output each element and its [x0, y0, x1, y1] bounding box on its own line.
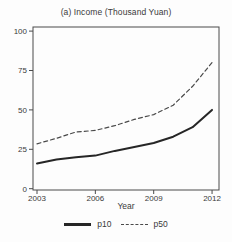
y-tick-label: 50	[18, 106, 27, 115]
line-p10	[37, 110, 212, 164]
legend-item-p50: p50	[121, 219, 168, 229]
legend-label-p10: p10	[97, 219, 111, 229]
plot-frame	[33, 27, 219, 190]
y-tick-label: 100	[14, 27, 28, 36]
legend-label-p50: p50	[154, 219, 168, 229]
x-axis-title: Year	[33, 201, 219, 211]
solid-line-swatch	[64, 223, 91, 226]
dashed-line-swatch	[121, 224, 148, 225]
chart-panel: (a) Income (Thousand Yuan) 0255075100200…	[0, 0, 232, 242]
y-tick-label: 75	[18, 66, 27, 75]
y-tick-label: 0	[23, 185, 28, 194]
legend: p10 p50	[0, 216, 232, 232]
legend-item-p10: p10	[64, 219, 111, 229]
y-tick-label: 25	[18, 145, 27, 154]
